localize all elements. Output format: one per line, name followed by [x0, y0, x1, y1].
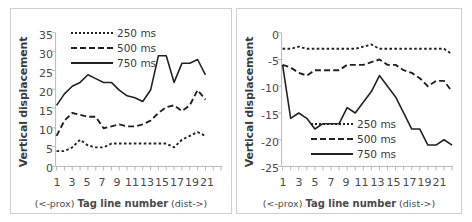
- legend-swatch-dashed-icon: [311, 134, 353, 144]
- x-caption-prox: (<-prox): [35, 198, 75, 209]
- legend-label: 750 ms: [357, 148, 396, 160]
- x-caption-dist: (dist->): [171, 198, 207, 209]
- legend-item-500ms: 500 ms: [311, 131, 396, 146]
- x-caption-prox: (<-prox): [263, 198, 303, 209]
- series-line-250ms: [57, 132, 206, 151]
- legend-label: 250 ms: [117, 27, 156, 39]
- figure-two-line-charts: Vertical displacement 35 30 25 20 15 10 …: [0, 0, 472, 222]
- x-axis-caption-right: (<-prox)Tag line number(dist->): [237, 198, 461, 209]
- plot-area-right: [237, 9, 461, 213]
- x-caption-dist: (dist->): [399, 198, 435, 209]
- legend-item-750ms: 750 ms: [71, 55, 156, 70]
- y-tick-marks: [52, 33, 56, 167]
- x-tick-marks: [283, 166, 452, 170]
- legend-item-750ms: 750 ms: [311, 146, 396, 161]
- legend-item-250ms: 250 ms: [71, 25, 156, 40]
- x-axis-title: Tag line number: [74, 198, 171, 209]
- legend-swatch-solid-icon: [71, 58, 113, 68]
- x-axis-title: Tag line number: [302, 198, 399, 209]
- legend-right: 250 ms 500 ms 750 ms: [311, 116, 396, 161]
- legend-item-250ms: 250 ms: [311, 116, 396, 131]
- legend-label: 500 ms: [357, 133, 396, 145]
- legend-swatch-dashed-icon: [71, 43, 113, 53]
- legend-label: 750 ms: [117, 57, 156, 69]
- legend-label: 250 ms: [357, 118, 396, 130]
- legend-left: 250 ms 500 ms 750 ms: [71, 25, 156, 70]
- y-tick-marks: [278, 33, 282, 167]
- legend-swatch-dotted-icon: [311, 119, 353, 129]
- series-line-250ms: [283, 45, 452, 55]
- legend-item-500ms: 500 ms: [71, 40, 156, 55]
- chart-panel-left: Vertical displacement 35 30 25 20 15 10 …: [10, 8, 232, 214]
- series-line-500ms: [283, 60, 452, 92]
- legend-swatch-solid-icon: [311, 149, 353, 159]
- legend-swatch-dotted-icon: [71, 28, 113, 38]
- legend-label: 500 ms: [117, 42, 156, 54]
- x-axis-caption-left: (<-prox)Tag line number(dist->): [11, 198, 231, 209]
- x-tick-marks: [57, 166, 222, 170]
- chart-panel-right: Vertical displacement 0 -5 -10 -15 -20 -…: [236, 8, 462, 214]
